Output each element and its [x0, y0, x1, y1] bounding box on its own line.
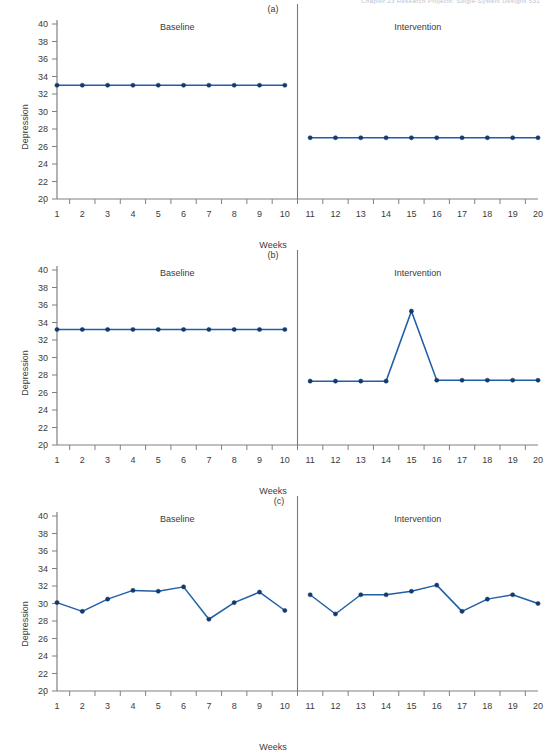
data-point — [359, 379, 363, 383]
y-tick-label: 22 — [38, 669, 48, 679]
y-tick-label: 26 — [38, 142, 48, 152]
y-tick-label: 32 — [38, 89, 48, 99]
data-point — [131, 327, 135, 331]
data-point — [283, 608, 287, 612]
data-point — [257, 83, 261, 87]
data-point — [55, 327, 59, 331]
x-tick-label: 11 — [305, 701, 314, 711]
data-point — [359, 593, 363, 597]
data-point — [106, 83, 110, 87]
x-tick-label: 5 — [156, 701, 161, 711]
x-tick-label: 17 — [457, 701, 467, 711]
x-tick-label: 7 — [206, 455, 211, 465]
x-tick-label: 5 — [156, 455, 161, 465]
x-tick-label: 1 — [54, 455, 59, 465]
figure-panel-a: (a) Depression 4038363432302826242220123… — [0, 4, 546, 250]
x-tick-label: 11 — [305, 209, 314, 219]
data-point — [106, 327, 110, 331]
data-point — [409, 136, 413, 140]
data-point — [409, 309, 413, 313]
data-point — [359, 136, 363, 140]
x-tick-label: 14 — [381, 209, 391, 219]
x-tick-label: 15 — [406, 455, 416, 465]
data-point — [536, 136, 540, 140]
data-point — [333, 136, 337, 140]
x-tick-label: 16 — [432, 701, 442, 711]
data-point — [460, 136, 464, 140]
y-tick-label: 40 — [38, 265, 48, 275]
data-point — [485, 378, 489, 382]
data-point — [207, 83, 211, 87]
x-tick-label: 13 — [356, 455, 366, 465]
y-tick-label: 28 — [38, 124, 48, 134]
data-point — [485, 136, 489, 140]
data-point — [80, 327, 84, 331]
data-point — [181, 585, 185, 589]
panel-b-x-axis-label: Weeks — [0, 486, 546, 496]
y-tick-label: 28 — [38, 616, 48, 626]
panel-a-x-axis-label: Weeks — [0, 240, 546, 250]
data-point — [257, 327, 261, 331]
y-tick-label: 38 — [38, 283, 48, 293]
data-point — [55, 83, 59, 87]
baseline-phase-label: Baseline — [160, 514, 195, 524]
x-tick-label: 9 — [257, 455, 262, 465]
data-point — [232, 601, 236, 605]
x-tick-label: 9 — [257, 209, 262, 219]
x-tick-label: 4 — [130, 455, 135, 465]
x-tick-label: 18 — [482, 209, 492, 219]
x-tick-label: 12 — [330, 701, 340, 711]
data-point — [460, 378, 464, 382]
y-tick-label: 38 — [38, 529, 48, 539]
y-tick-label: 20 — [38, 686, 48, 696]
x-tick-label: 10 — [280, 701, 290, 711]
x-tick-label: 8 — [232, 209, 237, 219]
data-point — [156, 589, 160, 593]
data-point — [207, 327, 211, 331]
y-tick-label: 36 — [38, 54, 48, 64]
x-tick-label: 2 — [80, 701, 85, 711]
y-tick-label: 24 — [38, 651, 48, 661]
data-point — [283, 327, 287, 331]
x-tick-label: 3 — [105, 209, 110, 219]
x-tick-label: 17 — [457, 209, 467, 219]
x-tick-label: 18 — [482, 701, 492, 711]
x-tick-label: 16 — [432, 209, 442, 219]
x-tick-label: 3 — [105, 455, 110, 465]
x-tick-label: 20 — [533, 455, 543, 465]
y-tick-label: 36 — [38, 300, 48, 310]
data-point — [308, 379, 312, 383]
panel-c-plot: 4038363432302826242220123456789101112131… — [0, 496, 546, 726]
x-tick-label: 12 — [330, 455, 340, 465]
x-tick-label: 14 — [381, 455, 391, 465]
y-tick-label: 28 — [38, 370, 48, 380]
data-point — [485, 597, 489, 601]
data-point — [384, 593, 388, 597]
x-tick-label: 2 — [80, 455, 85, 465]
x-tick-label: 19 — [508, 455, 518, 465]
x-tick-label: 9 — [257, 701, 262, 711]
data-point — [435, 136, 439, 140]
x-tick-label: 1 — [54, 701, 59, 711]
x-tick-label: 20 — [533, 209, 543, 219]
data-point — [207, 617, 211, 621]
data-point — [181, 327, 185, 331]
y-tick-label: 32 — [38, 335, 48, 345]
x-tick-label: 12 — [330, 209, 340, 219]
y-tick-label: 30 — [38, 353, 48, 363]
x-tick-label: 6 — [181, 701, 186, 711]
y-tick-label: 36 — [38, 546, 48, 556]
panel-a-plot: 4038363432302826242220123456789101112131… — [0, 4, 546, 234]
series-line-intervention — [310, 585, 538, 614]
intervention-phase-label: Intervention — [394, 268, 441, 278]
y-tick-label: 34 — [38, 564, 48, 574]
data-point — [536, 378, 540, 382]
x-tick-label: 6 — [181, 455, 186, 465]
y-tick-label: 34 — [38, 318, 48, 328]
x-tick-label: 18 — [482, 455, 492, 465]
y-tick-label: 20 — [38, 194, 48, 204]
y-tick-label: 30 — [38, 107, 48, 117]
data-point — [460, 609, 464, 613]
x-tick-label: 4 — [130, 209, 135, 219]
y-tick-label: 34 — [38, 72, 48, 82]
